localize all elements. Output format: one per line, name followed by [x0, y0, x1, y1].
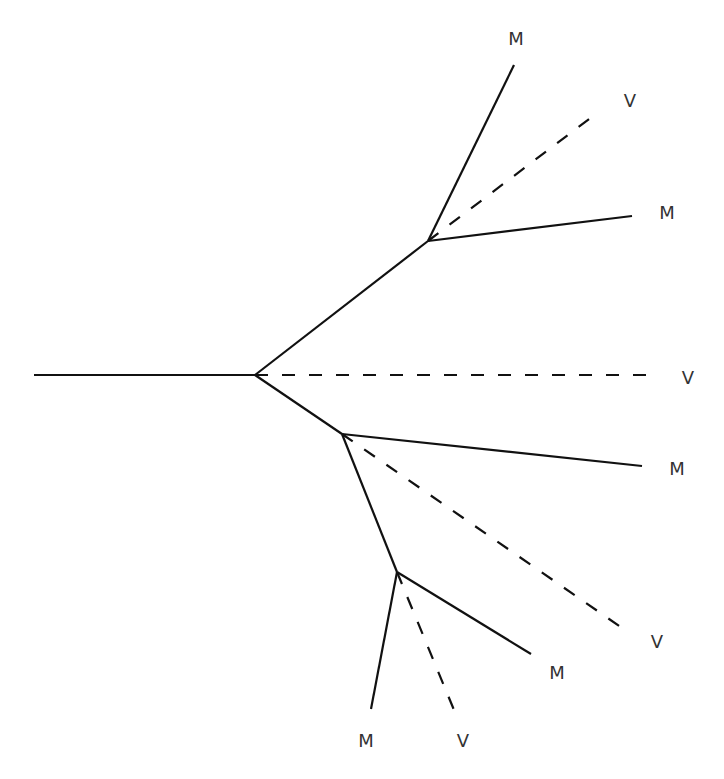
phylogenetic-tree-diagram: [0, 0, 724, 779]
solid-branch: [428, 65, 514, 241]
dashed-branch: [342, 434, 625, 630]
leaf-label-v: V: [651, 633, 663, 651]
tree-edges: [34, 65, 650, 710]
leaf-label-m: M: [358, 732, 374, 750]
dashed-branch: [397, 572, 454, 710]
solid-branch: [397, 572, 531, 654]
solid-branch: [342, 434, 397, 572]
leaf-label-v: V: [457, 732, 469, 750]
leaf-label-m: M: [508, 30, 524, 48]
leaf-label-m: M: [659, 204, 675, 222]
leaf-label-m: M: [549, 664, 565, 682]
solid-branch: [255, 375, 342, 434]
solid-branch: [371, 572, 397, 709]
solid-branch: [255, 241, 428, 375]
solid-branch: [342, 434, 642, 466]
dashed-branch: [428, 116, 593, 241]
leaf-label-m: M: [669, 460, 685, 478]
leaf-label-v: V: [682, 369, 694, 387]
solid-branch: [428, 216, 632, 241]
leaf-label-v: V: [624, 92, 636, 110]
